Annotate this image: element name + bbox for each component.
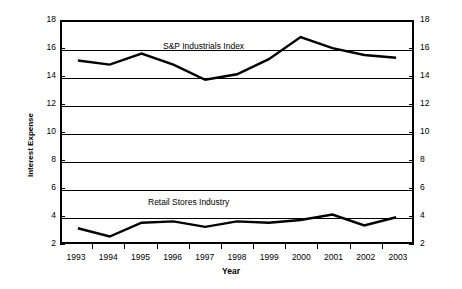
y-axis-tick-label: 18 xyxy=(420,15,446,24)
x-axis-title: Year xyxy=(0,266,462,276)
series-label-sp-industrials: S&P Industrials Index xyxy=(163,41,244,51)
x-axis-tick-mark xyxy=(92,244,93,249)
y-axis-tick-label: 4 xyxy=(420,211,446,220)
series-label-retail-stores: Retail Stores Industry xyxy=(148,197,229,207)
x-axis-tick-mark xyxy=(317,244,318,249)
y-axis-tick-label: 6 xyxy=(30,183,56,192)
x-axis-tick-mark xyxy=(157,244,158,249)
x-axis-tick-mark xyxy=(221,244,222,249)
y-axis-tick-label: 6 xyxy=(420,183,446,192)
series-lines xyxy=(62,22,412,242)
x-axis-tick-mark xyxy=(382,244,383,249)
x-axis-tick-mark xyxy=(253,244,254,249)
x-axis-tick-label: 2003 xyxy=(378,252,418,262)
y-axis-tick-label: 2 xyxy=(30,239,56,248)
y-axis-tick-label: 10 xyxy=(30,127,56,136)
x-axis-tick-mark xyxy=(350,244,351,249)
x-axis-tick-mark xyxy=(189,244,190,249)
y-axis-tick-label: 18 xyxy=(30,15,56,24)
y-axis-tick-label: 12 xyxy=(30,99,56,108)
y-axis-tick-label: 12 xyxy=(420,99,446,108)
series-line xyxy=(78,215,396,237)
y-axis-title: Interest Expense xyxy=(26,112,35,176)
y-axis-tick-label: 2 xyxy=(420,239,446,248)
y-axis-tick-label: 16 xyxy=(30,43,56,52)
plot-area xyxy=(60,20,414,244)
y-axis-tick-label: 14 xyxy=(30,71,56,80)
y-axis-tick-label: 8 xyxy=(420,155,446,164)
y-axis-tick-mark xyxy=(60,244,65,245)
y-axis-tick-label: 16 xyxy=(420,43,446,52)
x-axis-tick-mark xyxy=(285,244,286,249)
y-axis-tick-label: 8 xyxy=(30,155,56,164)
y-axis-tick-label: 4 xyxy=(30,211,56,220)
y-axis-tick-mark xyxy=(409,244,414,245)
y-axis-tick-label: 10 xyxy=(420,127,446,136)
y-axis-tick-label: 14 xyxy=(420,71,446,80)
chart-container: Interest Expense Year 224466881010121214… xyxy=(0,0,462,289)
x-axis-tick-mark xyxy=(124,244,125,249)
